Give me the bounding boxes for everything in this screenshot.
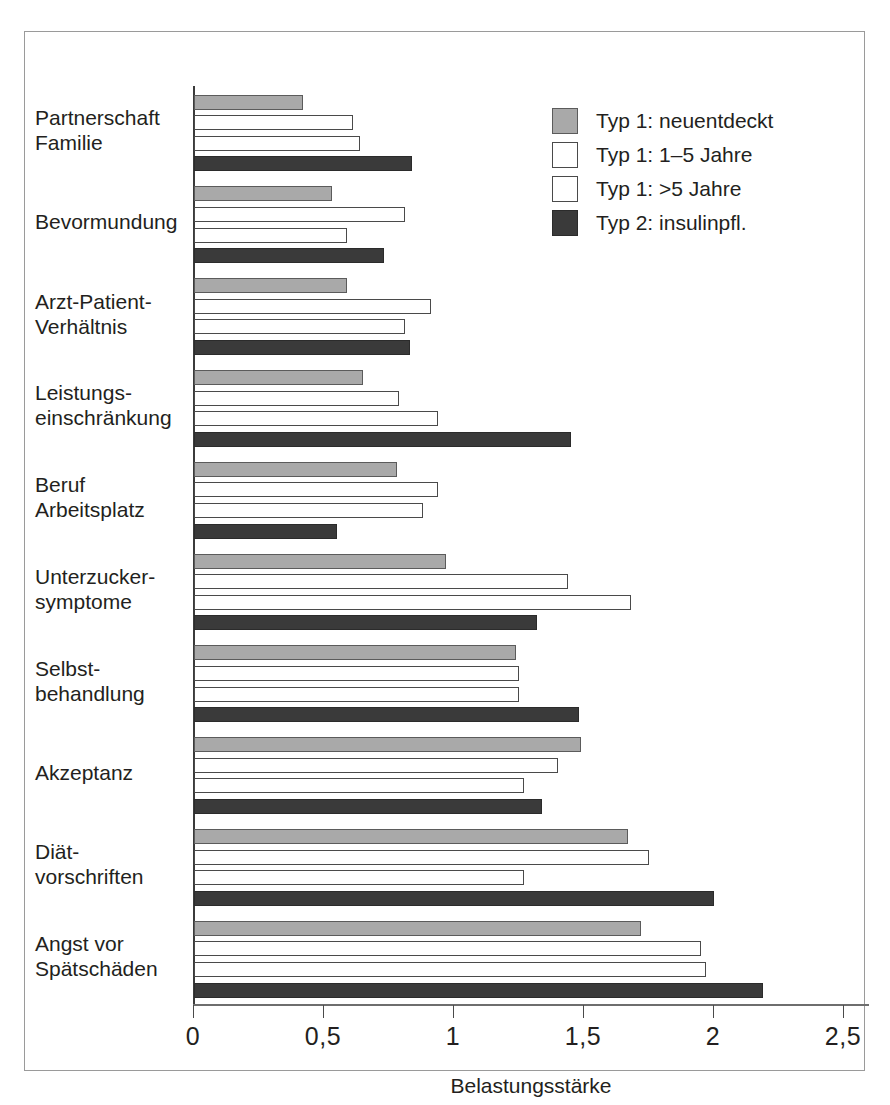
- legend-item: Typ 2: insulinpfl.: [552, 206, 852, 240]
- bar: [194, 115, 353, 130]
- bar: [194, 319, 405, 334]
- x-axis-tick: [193, 1005, 194, 1018]
- bar: [194, 850, 649, 865]
- chart-page: Partnerschaft FamilieBevormundungArzt-Pa…: [0, 0, 890, 1105]
- legend-swatch-icon: [552, 142, 578, 168]
- bar: [194, 962, 706, 977]
- category-label: Arzt-Patient- Verhältnis: [35, 289, 185, 339]
- bar: [194, 554, 446, 569]
- bar: [194, 370, 363, 385]
- bar: [194, 687, 519, 702]
- legend-item: Typ 1: neuentdeckt: [552, 104, 852, 138]
- legend-item-label: Typ 2: insulinpfl.: [596, 211, 747, 235]
- bar: [194, 391, 399, 406]
- bar: [194, 870, 524, 885]
- category-label: Angst vor Spätschäden: [35, 931, 185, 981]
- x-axis-tick-label: 2: [706, 1022, 720, 1051]
- bar: [194, 737, 581, 752]
- x-axis-tick-label: 0,5: [305, 1022, 341, 1051]
- bar: [194, 278, 347, 293]
- category-label: Unterzucker- symptome: [35, 564, 185, 614]
- x-axis-title: Belastungsstärke: [193, 1074, 869, 1098]
- bar: [194, 186, 332, 201]
- bar: [194, 891, 714, 906]
- bar: [194, 340, 410, 355]
- bar: [194, 299, 431, 314]
- x-axis-tick: [583, 1005, 584, 1018]
- legend-item-label: Typ 1: neuentdeckt: [596, 109, 773, 133]
- category-axis-labels: Partnerschaft FamilieBevormundungArzt-Pa…: [35, 86, 193, 1004]
- bar: [194, 482, 438, 497]
- x-axis-tick-label: 1,5: [565, 1022, 601, 1051]
- category-label: Leistungs- einschränkung: [35, 380, 185, 430]
- category-label: Partnerschaft Familie: [35, 105, 185, 155]
- bar: [194, 228, 347, 243]
- bar: [194, 503, 423, 518]
- category-label: Beruf Arbeitsplatz: [35, 472, 185, 522]
- bar: [194, 248, 384, 263]
- legend-swatch-icon: [552, 176, 578, 202]
- category-label: Bevormundung: [35, 209, 185, 234]
- bar: [194, 707, 579, 722]
- bar: [194, 941, 701, 956]
- bar: [194, 758, 558, 773]
- y-axis-line: [193, 86, 195, 1004]
- bar: [194, 462, 397, 477]
- chart-legend: Typ 1: neuentdeckt Typ 1: 1–5 Jahre Typ …: [552, 104, 852, 240]
- bar: [194, 595, 631, 610]
- category-label: Diät- vorschriften: [35, 839, 185, 889]
- bar: [194, 95, 303, 110]
- bar: [194, 136, 360, 151]
- bar: [194, 829, 628, 844]
- bar: [194, 574, 568, 589]
- legend-swatch-icon: [552, 108, 578, 134]
- bar: [194, 432, 571, 447]
- bar: [194, 615, 537, 630]
- bar: [194, 156, 412, 171]
- bar: [194, 645, 516, 660]
- legend-item: Typ 1: >5 Jahre: [552, 172, 852, 206]
- x-axis-tick: [323, 1005, 324, 1018]
- bar: [194, 207, 405, 222]
- category-label: Selbst- behandlung: [35, 656, 185, 706]
- x-axis-tick: [713, 1005, 714, 1018]
- x-axis-line: [193, 1004, 869, 1006]
- legend-swatch-icon: [552, 210, 578, 236]
- bar: [194, 983, 763, 998]
- x-axis-tick: [843, 1005, 844, 1018]
- x-axis-tick-label: 1: [446, 1022, 460, 1051]
- category-label: Akzeptanz: [35, 760, 185, 785]
- bar: [194, 666, 519, 681]
- x-axis-tick-label: 2,5: [825, 1022, 861, 1051]
- bar: [194, 799, 542, 814]
- bar: [194, 411, 438, 426]
- bar: [194, 778, 524, 793]
- chart-frame: Partnerschaft FamilieBevormundungArzt-Pa…: [24, 31, 865, 1071]
- legend-item-label: Typ 1: >5 Jahre: [596, 177, 741, 201]
- bar: [194, 524, 337, 539]
- legend-item: Typ 1: 1–5 Jahre: [552, 138, 852, 172]
- x-axis-tick-label: 0: [186, 1022, 200, 1051]
- bar: [194, 921, 641, 936]
- x-axis-tick: [453, 1005, 454, 1018]
- legend-item-label: Typ 1: 1–5 Jahre: [596, 143, 752, 167]
